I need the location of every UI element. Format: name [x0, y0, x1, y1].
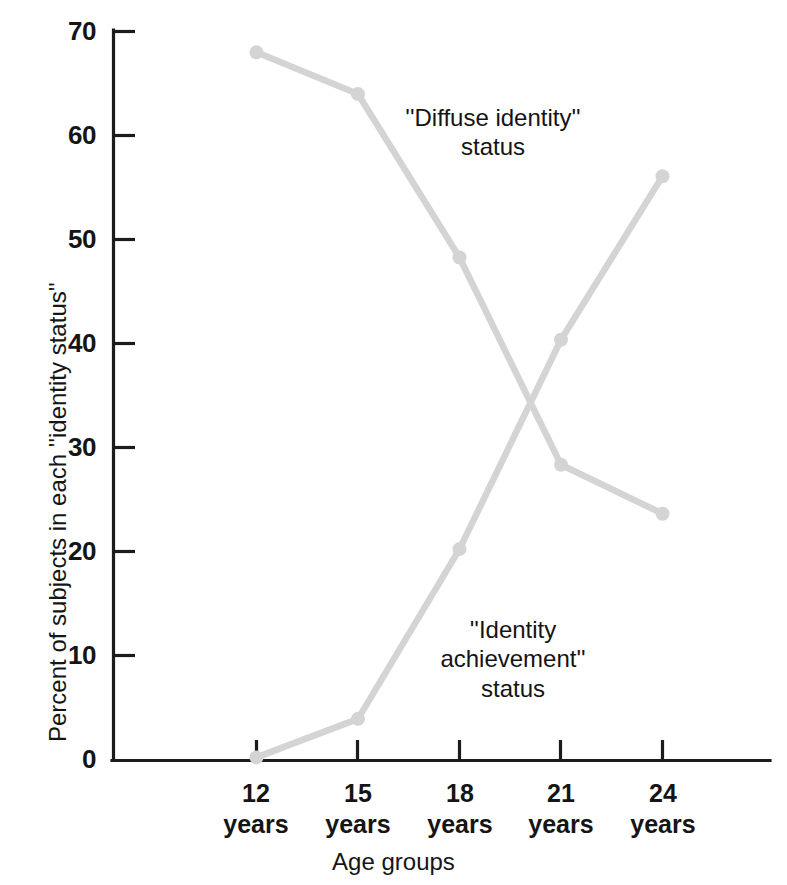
y-tick-marks — [113, 32, 135, 656]
data-point — [656, 169, 670, 183]
data-point — [453, 542, 467, 556]
annotation-identity-achievement: ''Identity achievement'' status — [398, 615, 628, 703]
data-point — [351, 87, 365, 101]
x-axis-title: Age groups — [0, 848, 787, 876]
x-tick-label-24: 24 years — [603, 778, 723, 839]
data-point — [453, 250, 467, 264]
data-point — [250, 45, 264, 59]
data-point — [554, 333, 568, 347]
x-tick-marks — [257, 740, 663, 760]
annotation-diffuse-identity: ''Diffuse identity'' status — [368, 103, 618, 162]
y-axis-title: Percent of subjects in each ''identity s… — [44, 282, 72, 742]
y-tick-label: 60 — [48, 122, 96, 148]
data-point — [656, 507, 670, 521]
y-tick-label: 0 — [48, 746, 96, 772]
data-point — [351, 712, 365, 726]
y-tick-label: 50 — [48, 226, 96, 252]
data-point — [250, 750, 264, 764]
chart-figure: 70 60 50 40 30 20 10 0 12 years 15 years… — [0, 0, 787, 885]
y-tick-label: 70 — [48, 18, 96, 44]
data-point — [554, 458, 568, 472]
